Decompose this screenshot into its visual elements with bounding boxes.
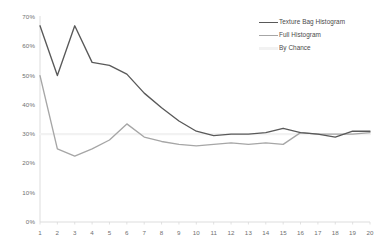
y-axis-tick-label-60: 60% bbox=[4, 43, 35, 49]
x-axis-tick-label-9: 9 bbox=[177, 230, 181, 236]
x-axis-tick-label-4: 4 bbox=[90, 230, 94, 236]
x-axis-tick-label-1: 1 bbox=[38, 230, 42, 236]
y-axis-tick-label-10: 10% bbox=[4, 190, 35, 196]
legend-item-texture-bag-histogram[interactable]: Texture Bag Histogram bbox=[258, 17, 376, 28]
x-axis-tick-label-19: 19 bbox=[349, 230, 356, 236]
y-axis-tick-label-20: 20% bbox=[4, 160, 35, 166]
legend-item-label: By Chance bbox=[279, 45, 311, 51]
legend-swatch-icon bbox=[258, 17, 279, 28]
x-axis-tick-label-5: 5 bbox=[108, 230, 112, 236]
legend-item-label: Full Histogram bbox=[279, 32, 321, 38]
y-axis-tick-label-0: 0% bbox=[4, 219, 35, 225]
y-axis-tick-label-30: 30% bbox=[4, 131, 35, 137]
chart-legend: Texture Bag HistogramFull HistogramBy Ch… bbox=[258, 17, 376, 56]
legend-item-full-histogram[interactable]: Full Histogram bbox=[258, 30, 376, 41]
x-axis-tick-label-17: 17 bbox=[314, 230, 321, 236]
x-axis-tick-label-11: 11 bbox=[210, 230, 217, 236]
x-axis-tick-label-10: 10 bbox=[193, 230, 200, 236]
x-axis-tick-label-12: 12 bbox=[228, 230, 235, 236]
y-axis-tick-label-40: 40% bbox=[4, 102, 35, 108]
x-axis-tick-label-6: 6 bbox=[125, 230, 129, 236]
y-axis-tick-label-70: 70% bbox=[4, 14, 35, 20]
x-axis-tick-label-8: 8 bbox=[160, 230, 164, 236]
series-line-full-histogram bbox=[40, 76, 370, 157]
line-chart: 70%60%50%40%30%20%10%0% 1234567891011121… bbox=[0, 0, 378, 251]
x-axis-tick-label-2: 2 bbox=[56, 230, 60, 236]
x-axis-tick-label-20: 20 bbox=[366, 230, 373, 236]
x-axis-tick-label-16: 16 bbox=[297, 230, 304, 236]
legend-item-by-chance[interactable]: By Chance bbox=[258, 43, 376, 54]
y-axis-tick-label-50: 50% bbox=[4, 72, 35, 78]
x-axis-tick-label-3: 3 bbox=[73, 230, 77, 236]
x-axis-tick-label-18: 18 bbox=[332, 230, 339, 236]
legend-swatch-icon bbox=[258, 30, 279, 41]
legend-item-label: Texture Bag Histogram bbox=[279, 19, 345, 25]
x-axis-tick-label-13: 13 bbox=[245, 230, 252, 236]
legend-swatch-icon bbox=[258, 43, 279, 54]
x-axis-tick-label-15: 15 bbox=[280, 230, 287, 236]
x-axis-tick-label-14: 14 bbox=[262, 230, 269, 236]
x-axis-tick-label-7: 7 bbox=[142, 230, 146, 236]
